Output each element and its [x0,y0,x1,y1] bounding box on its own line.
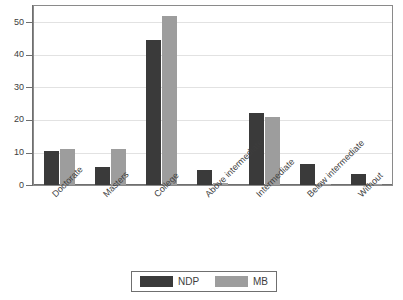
legend-label-ndp: NDP [178,277,199,287]
y-axis-tick-label: 10 [2,148,24,157]
chart-legend: NDP MB [131,271,277,292]
y-axis-tick [26,55,32,56]
x-axis-labels: DoctorateMastersCollegeAbove intermediat… [0,186,403,266]
y-axis-tick-label: 40 [2,50,24,59]
y-axis-tick [26,87,32,88]
legend-swatch-ndp [140,276,173,287]
bar-ndp-below-intermediate [300,164,315,185]
y-axis-tick-label: 50 [2,18,24,27]
bar-mb-college [162,16,177,185]
y-axis-line [32,5,33,186]
bar-chart-figure: 01020304050 DoctorateMastersCollegeAbove… [0,0,403,300]
legend-entry-mb[interactable]: MB [215,276,268,287]
bar-ndp-masters [95,167,110,185]
legend-swatch-mb [215,276,248,287]
bar-group [136,6,187,185]
y-axis-tick-label: 30 [2,83,24,92]
bar-ndp-doctorate [44,151,59,185]
bar-group [187,6,238,185]
bar-group [85,6,136,185]
bar-ndp-college [146,40,161,185]
y-axis-tick [26,120,32,121]
bar-group [290,6,341,185]
legend-entry-ndp[interactable]: NDP [140,276,199,287]
y-axis-tick [26,22,32,23]
bar-group [34,6,85,185]
y-axis-tick-label: 20 [2,115,24,124]
y-axis-tick [26,153,32,154]
legend-label-mb: MB [253,277,268,287]
